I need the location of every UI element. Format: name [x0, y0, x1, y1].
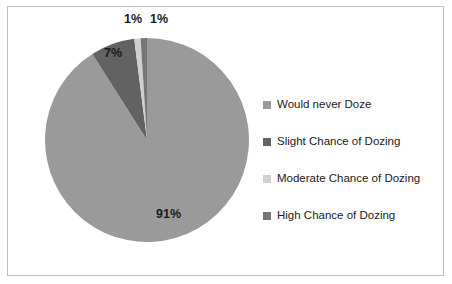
slice-data-label-high: 1% — [124, 12, 142, 26]
legend-swatch-icon-would-never — [263, 101, 271, 109]
legend-swatch-icon-slight — [263, 138, 271, 146]
pie-slice-would-never[interactable] — [45, 38, 249, 242]
slice-data-label-moderate: 1% — [150, 12, 168, 26]
legend-label-slight: Slight Chance of Dozing — [277, 136, 400, 148]
legend-item-slight[interactable]: Slight Chance of Dozing — [263, 123, 443, 160]
legend-label-high: High Chance of Dozing — [277, 210, 395, 222]
legend-item-would-never[interactable]: Would never Doze — [263, 86, 443, 123]
legend-label-moderate: Moderate Chance of Dozing — [277, 173, 420, 185]
legend-label-would-never: Would never Doze — [277, 99, 371, 111]
legend-swatch-icon-moderate — [263, 175, 271, 183]
slice-data-label-would-never: 91% — [156, 207, 181, 221]
legend-item-moderate[interactable]: Moderate Chance of Dozing — [263, 160, 443, 197]
slice-data-label-slight: 7% — [104, 46, 122, 60]
pie-chart-figure: 91% 7% 1% 1% Would never Doze Slight Cha… — [0, 0, 452, 284]
chart-legend: Would never Doze Slight Chance of Dozing… — [263, 86, 443, 234]
legend-swatch-icon-high — [263, 212, 271, 220]
legend-item-high[interactable]: High Chance of Dozing — [263, 197, 443, 234]
